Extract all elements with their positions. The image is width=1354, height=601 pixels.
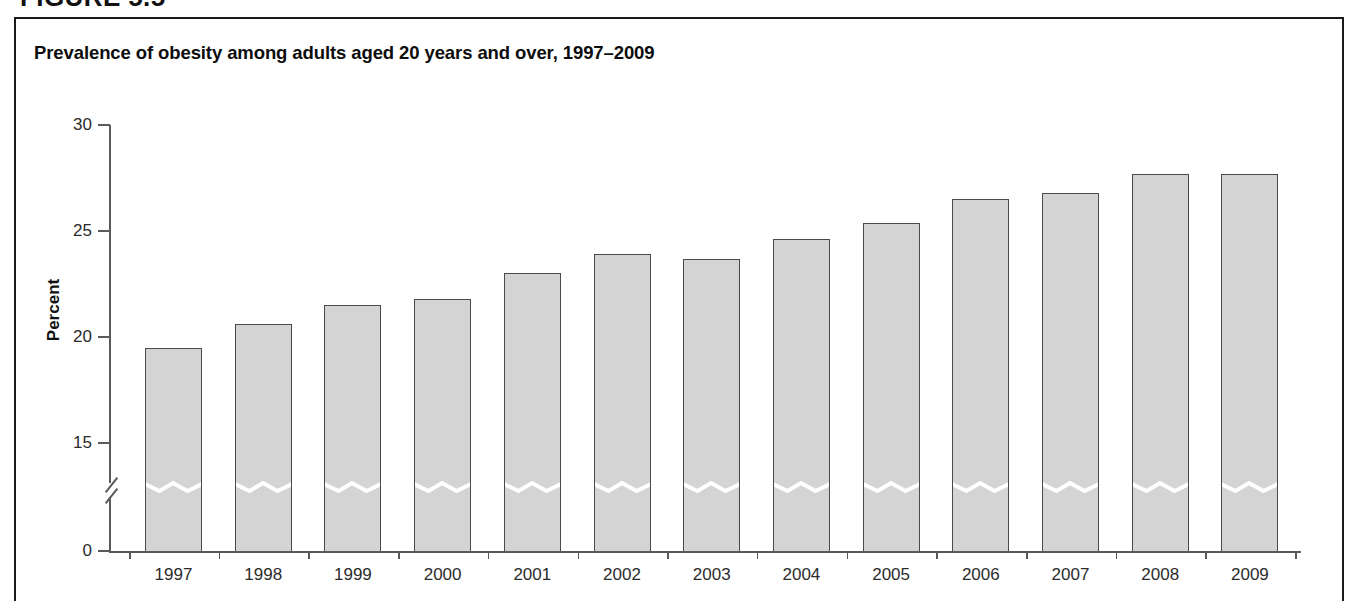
bar-2002 [594,254,651,551]
bar-break-mark-2000 [415,479,470,495]
y-tick-label-20: 20 [52,327,92,347]
bar-2001 [504,273,561,551]
bar-2005 [863,223,920,551]
x-tick-2000 [398,551,400,559]
x-tick-end [1295,551,1297,559]
bar-1999 [324,305,381,551]
x-tick-2002 [578,551,580,559]
bar-break-mark-2007 [1043,479,1098,495]
x-tick-label-2008: 2008 [1132,565,1189,585]
y-tick-25 [98,230,110,232]
x-tick-label-2007: 2007 [1042,565,1099,585]
x-tick-label-1998: 1998 [235,565,292,585]
y-tick-30 [98,124,110,126]
x-tick-label-1999: 1999 [324,565,381,585]
x-tick-2003 [667,551,669,559]
bar-break-mark-1998 [236,479,291,495]
y-tick-20 [98,336,110,338]
bar-2000 [414,299,471,551]
bar-break-mark-2005 [864,479,919,495]
x-tick-label-1997: 1997 [145,565,202,585]
bar-2007 [1042,193,1099,551]
bar-break-mark-2003 [684,479,739,495]
bar-chart-plot: Percent 015202530 1997199819992000200120… [0,0,1354,601]
bar-2003 [683,259,740,551]
y-tick-label-15: 15 [52,433,92,453]
y-tick-0 [98,550,110,552]
x-tick-1997 [129,551,131,559]
x-tick-label-2006: 2006 [952,565,1009,585]
x-tick-label-2003: 2003 [683,565,740,585]
x-tick-label-2001: 2001 [504,565,561,585]
x-tick-label-2004: 2004 [773,565,830,585]
y-tick-label-0: 0 [52,541,92,561]
bar-break-mark-1997 [146,479,201,495]
bar-2004 [773,239,830,551]
x-tick-2006 [936,551,938,559]
bar-1997 [145,348,202,551]
figure-page: FIGURE 5.5 Prevalence of obesity among a… [0,0,1354,601]
x-tick-2005 [847,551,849,559]
bar-break-mark-2004 [774,479,829,495]
bar-2006 [952,199,1009,551]
bar-break-mark-2009 [1222,479,1277,495]
bar-break-mark-2008 [1133,479,1188,495]
y-axis-break-icon [101,477,121,503]
x-tick-2009 [1205,551,1207,559]
y-tick-label-25: 25 [52,221,92,241]
bar-break-mark-2002 [595,479,650,495]
bar-break-mark-1999 [325,479,380,495]
x-tick-label-2002: 2002 [594,565,651,585]
x-tick-1998 [219,551,221,559]
x-tick-2008 [1116,551,1118,559]
y-tick-15 [98,442,110,444]
bar-2009 [1221,174,1278,551]
bar-2008 [1132,174,1189,551]
x-tick-2007 [1026,551,1028,559]
x-tick-label-2005: 2005 [863,565,920,585]
x-tick-label-2009: 2009 [1221,565,1278,585]
y-axis-label: Percent [44,250,64,370]
x-axis-line [109,551,1301,553]
x-tick-1999 [308,551,310,559]
bar-break-mark-2001 [505,479,560,495]
bar-break-mark-2006 [953,479,1008,495]
y-tick-label-30: 30 [52,115,92,135]
x-tick-label-2000: 2000 [414,565,471,585]
x-tick-2004 [757,551,759,559]
x-tick-2001 [488,551,490,559]
bar-1998 [235,324,292,551]
